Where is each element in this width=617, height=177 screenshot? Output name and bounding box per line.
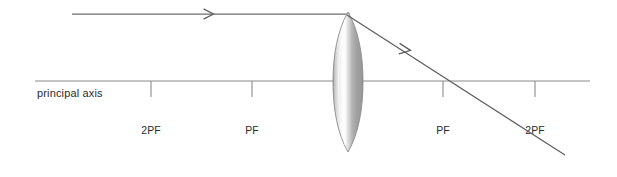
ray-diagram-canvas: principal axis 2PF PF PF 2PF: [0, 0, 617, 177]
tick-pf-right: PF: [436, 81, 450, 136]
tick-pf-left-label: PF: [245, 124, 259, 136]
refracted-ray-line: [347, 15, 565, 155]
tick-2pf-right: 2PF: [525, 81, 545, 136]
tick-2pf-right-label: 2PF: [525, 124, 545, 136]
tick-2pf-left: 2PF: [141, 81, 161, 136]
tick-pf-right-label: PF: [436, 124, 450, 136]
convex-lens-body: [333, 12, 363, 152]
convex-lens: [333, 12, 363, 152]
optics-diagram-svg: principal axis 2PF PF PF 2PF: [0, 0, 617, 177]
incident-ray: [72, 9, 350, 19]
tick-2pf-left-label: 2PF: [141, 124, 161, 136]
refracted-ray-arrow-icon: [399, 44, 410, 54]
tick-pf-left: PF: [245, 81, 259, 136]
principal-axis-label: principal axis: [37, 87, 103, 99]
refracted-ray: [347, 15, 565, 155]
